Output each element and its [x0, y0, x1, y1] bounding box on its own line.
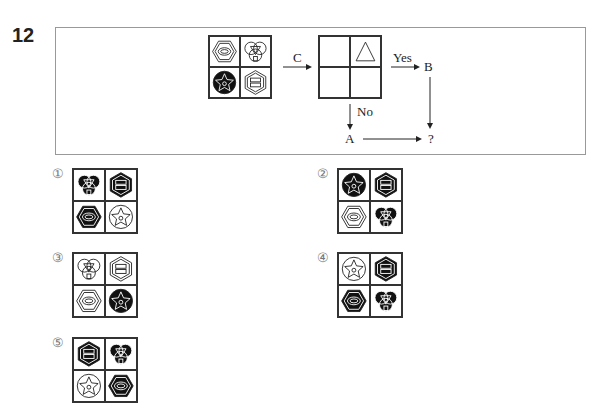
arrow-down-icon [425, 77, 435, 129]
filled-circle-star-icon [341, 172, 367, 198]
grid-cell [338, 253, 370, 285]
grid-cell [338, 201, 370, 233]
arrow-right-icon [390, 62, 420, 72]
grid-cell [370, 169, 402, 201]
question-number: 12 [12, 24, 34, 47]
option-3-label[interactable]: ③ [52, 250, 64, 266]
grid-cell [370, 201, 402, 233]
option-2-label[interactable]: ② [317, 166, 329, 182]
grid-cell [240, 67, 271, 98]
option-4-grid[interactable] [337, 252, 403, 318]
grid-cell [370, 253, 402, 285]
node-b: B [424, 59, 433, 75]
source-grid [208, 35, 272, 99]
filled-circle-star-icon [341, 256, 367, 282]
hexagon-ellipse-icon [108, 373, 134, 399]
grid-cell [105, 201, 137, 233]
grid-cell [73, 201, 105, 233]
arrow-right-icon [282, 62, 312, 72]
filled-circle-star-icon [108, 288, 134, 314]
grid-cell [73, 338, 105, 370]
node-a: A [345, 131, 354, 147]
grid-cell [338, 169, 370, 201]
grid-cell [319, 36, 350, 67]
option-5-grid[interactable] [72, 337, 138, 403]
option-5-label[interactable]: ⑤ [52, 335, 64, 351]
hexagon-ellipse-icon [341, 204, 367, 230]
hexagon-bars-icon [108, 256, 134, 282]
grid-cell [105, 253, 137, 285]
triangle-icon [353, 39, 378, 64]
hexagon-ellipse-icon [212, 39, 237, 64]
trefoil-circles-icon [76, 256, 102, 282]
option-3-grid[interactable] [72, 252, 138, 318]
grid-cell [105, 285, 137, 317]
grid-cell [350, 67, 381, 98]
trefoil-circles-icon [373, 288, 399, 314]
hexagon-ellipse-icon [76, 204, 102, 230]
hexagon-bars-icon [373, 172, 399, 198]
hexagon-bars-icon [108, 172, 134, 198]
filled-circle-star-icon [212, 70, 237, 95]
hexagon-ellipse-icon [76, 288, 102, 314]
hexagon-bars-icon [243, 70, 268, 95]
grid-cell [209, 67, 240, 98]
result-unknown: ? [428, 131, 434, 147]
option-2-grid[interactable] [337, 168, 403, 234]
grid-cell [73, 169, 105, 201]
arrow-down-icon [345, 104, 355, 130]
hexagon-ellipse-icon [341, 288, 367, 314]
hexagon-bars-icon [373, 256, 399, 282]
grid-cell [319, 67, 350, 98]
trefoil-circles-icon [243, 39, 268, 64]
trefoil-circles-icon [373, 204, 399, 230]
grid-cell [370, 285, 402, 317]
grid-cell [105, 338, 137, 370]
grid-cell [105, 169, 137, 201]
grid-cell [350, 36, 381, 67]
trefoil-circles-icon [108, 341, 134, 367]
filled-circle-star-icon [76, 373, 102, 399]
trefoil-circles-icon [76, 172, 102, 198]
grid-cell [105, 370, 137, 402]
filled-circle-star-icon [108, 204, 134, 230]
grid-cell [73, 370, 105, 402]
no-label: No [357, 104, 373, 120]
grid-cell [240, 36, 271, 67]
arrow-right-icon [362, 134, 422, 144]
option-1-label[interactable]: ① [52, 166, 64, 182]
grid-cell [338, 285, 370, 317]
grid-cell [209, 36, 240, 67]
hexagon-bars-icon [76, 341, 102, 367]
option-1-grid[interactable] [72, 168, 138, 234]
option-4-label[interactable]: ④ [317, 250, 329, 266]
condition-grid [318, 35, 382, 99]
grid-cell [73, 253, 105, 285]
grid-cell [73, 285, 105, 317]
